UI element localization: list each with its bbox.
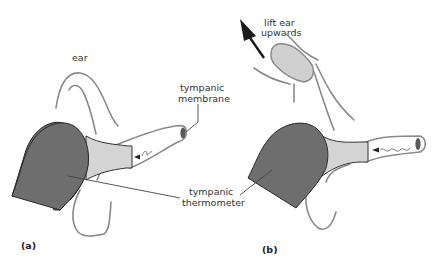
label-tympanic-membrane-2: membrane [178, 93, 230, 104]
ir-wave [142, 151, 152, 156]
ear-lobe [73, 190, 111, 236]
label-ear: ear [72, 52, 88, 63]
label-lift-2: upwards [261, 27, 301, 38]
ir-arrow-icon-b [372, 148, 379, 153]
thermometer-body-b [248, 123, 328, 208]
panel-a: ear tympanic membrane (a) [12, 52, 230, 251]
ear-canal-b-lower [366, 152, 420, 162]
label-tympanic-thermometer-1: tympanic [189, 186, 233, 197]
lift-arrow-icon [240, 19, 256, 41]
thermometer-probe [86, 136, 132, 180]
panel-label-a: (a) [21, 240, 36, 251]
tympanic-membrane-b [415, 138, 420, 150]
label-tympanic-thermometer-2: thermometer [182, 197, 245, 208]
lifted-ear-lobe [271, 44, 313, 82]
membrane-leader [186, 104, 198, 132]
ir-arrow-icon [134, 155, 140, 160]
panel-label-b: (b) [262, 244, 277, 255]
label-tympanic-membrane-1: tympanic [180, 82, 224, 93]
ir-wave-b [380, 148, 410, 151]
thermometer-probe-b [322, 136, 368, 176]
lifted-ear-strands [316, 64, 354, 120]
thermometer-leader-a [68, 176, 180, 198]
tympanic-thermometer-diagram: ear tympanic membrane (a) tympanic therm… [0, 0, 432, 264]
panel-b: lift ear upwards (b) [240, 17, 425, 255]
tympanic-membrane [180, 128, 185, 139]
